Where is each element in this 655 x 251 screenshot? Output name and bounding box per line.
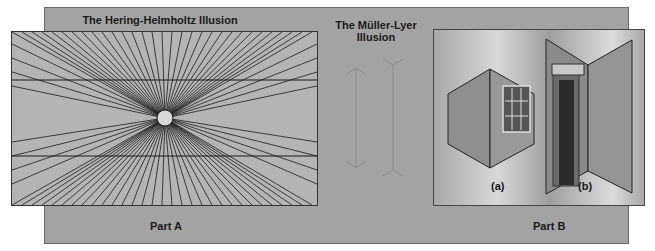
subfigure-b-label: (b) (578, 180, 592, 192)
part-b-label: Part B (533, 220, 565, 232)
part-a-label: Part A (150, 220, 182, 232)
subfigure-a-label: (a) (491, 180, 504, 192)
perspective-figure (0, 0, 655, 251)
